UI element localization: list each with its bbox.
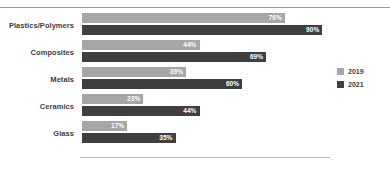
- corner-mark: ▪: [331, 158, 332, 162]
- category-label-glass: Glass: [0, 121, 74, 146]
- axis-baseline: [80, 157, 330, 158]
- category-group: Glass 17% 35%: [0, 121, 390, 146]
- chart-legend: 2019 2021: [337, 66, 364, 92]
- bar-value-label: 44%: [183, 42, 196, 49]
- legend-item-2019[interactable]: 2019: [337, 66, 364, 76]
- bar-2019-glass[interactable]: 17%: [82, 121, 127, 131]
- legend-label: 2021: [348, 81, 364, 88]
- bar-2019-ceramics[interactable]: 23%: [82, 94, 143, 104]
- category-group: Metals 39% 60%: [0, 67, 390, 92]
- category-label-plastics-polymers: Plastics/Polymers: [0, 13, 74, 38]
- legend-swatch-icon: [337, 81, 344, 88]
- bar-value-label: 69%: [250, 54, 263, 61]
- legend-swatch-icon: [337, 68, 344, 75]
- bar-2021-glass[interactable]: 35%: [82, 133, 176, 143]
- bar-value-label: 44%: [183, 108, 196, 115]
- bar-2019-composites[interactable]: 44%: [82, 40, 200, 50]
- bar-value-label: 17%: [111, 123, 124, 130]
- category-group: Ceramics 23% 44%: [0, 94, 390, 119]
- bar-value-label: 23%: [127, 96, 140, 103]
- bar-value-label: 35%: [159, 135, 172, 142]
- legend-label: 2019: [348, 68, 364, 75]
- bar-2019-metals[interactable]: 39%: [82, 67, 186, 77]
- bar-2019-plastics-polymers[interactable]: 76%: [82, 13, 285, 23]
- bar-2021-metals[interactable]: 60%: [82, 79, 242, 89]
- category-label-metals: Metals: [0, 67, 74, 92]
- bar-2021-ceramics[interactable]: 44%: [82, 106, 200, 116]
- legend-item-2021[interactable]: 2021: [337, 79, 364, 89]
- category-group: Composites 44% 69%: [0, 40, 390, 65]
- bar-value-label: 76%: [269, 15, 282, 22]
- category-group: Plastics/Polymers 76% 90%: [0, 13, 390, 38]
- category-label-ceramics: Ceramics: [0, 94, 74, 119]
- bar-chart: Plastics/Polymers 76% 90% Composites: [0, 0, 390, 170]
- top-divider: [0, 7, 390, 8]
- bar-value-label: 90%: [306, 27, 319, 34]
- bar-2021-composites[interactable]: 69%: [82, 52, 266, 62]
- bar-value-label: 60%: [226, 81, 239, 88]
- bar-value-label: 39%: [170, 69, 183, 76]
- category-label-composites: Composites: [0, 40, 74, 65]
- plot-area: Plastics/Polymers 76% 90% Composites: [0, 13, 390, 159]
- bar-2021-plastics-polymers[interactable]: 90%: [82, 25, 322, 35]
